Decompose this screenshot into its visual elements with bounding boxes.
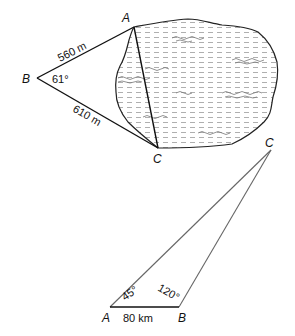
fig2-vertex-a-label: A [101, 311, 110, 325]
fig2-vertex-b-label: B [178, 311, 186, 325]
diagram-canvas: A B C 61° 560 m 610 m C A B 80 km 45° 12… [0, 0, 295, 336]
fig2-angle-a-label: 45° [119, 283, 140, 302]
lake [116, 19, 278, 148]
side-ac-line-2 [110, 150, 271, 307]
fig1-vertex-a-label: A [121, 11, 130, 25]
side-bc-line-2 [179, 150, 271, 307]
fig1-vertex-c-label: C [153, 152, 162, 166]
fig1-vertex-b-label: B [22, 72, 30, 86]
figure2-triangle [110, 150, 271, 307]
fig1-angle-b-label: 61° [52, 73, 69, 85]
fig1-side-bc-label: 610 m [71, 102, 103, 128]
diagram-svg: A B C 61° 560 m 610 m C A B 80 km 45° 12… [0, 0, 295, 336]
fig2-vertex-c-label: C [265, 136, 274, 150]
fig2-angle-b-label: 120° [156, 281, 182, 303]
fig2-side-ab-label: 80 km [123, 312, 153, 324]
